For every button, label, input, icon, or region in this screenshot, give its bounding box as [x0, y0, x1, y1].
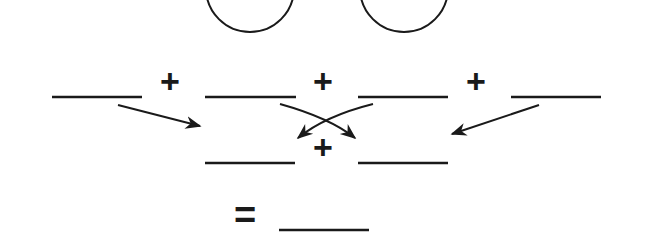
arrow-1-icon [118, 105, 200, 126]
diagram-canvas [0, 0, 647, 237]
circle-left [206, 0, 294, 32]
arrow-3-icon [298, 104, 373, 138]
circle-right [360, 0, 448, 32]
plus-sign-3: + [466, 64, 486, 98]
plus-sign-1: + [160, 64, 180, 98]
arrow-4-icon [452, 105, 539, 134]
plus-sign-2: + [313, 64, 333, 98]
plus-sign-4: + [313, 130, 333, 164]
equals-sign: = [234, 196, 256, 234]
